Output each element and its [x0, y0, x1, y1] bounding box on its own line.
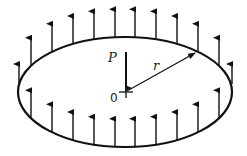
- radius-label-r: r: [153, 58, 160, 73]
- diagram-canvas: P r 0: [0, 0, 247, 156]
- radius-arrow: [127, 53, 195, 91]
- force-label-p: P: [107, 50, 117, 65]
- lower-load-arrows: [31, 90, 219, 146]
- origin-label: 0: [110, 91, 118, 105]
